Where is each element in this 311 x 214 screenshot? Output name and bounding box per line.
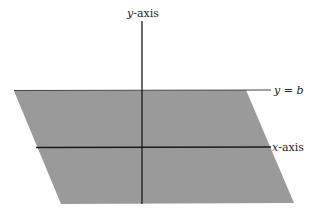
y-axis-label: y-axis <box>126 7 159 20</box>
half-plane-diagram: y-axis y = b x-axis <box>0 0 311 214</box>
x-axis-label: x-axis <box>272 141 304 154</box>
line-label-y-equals-b: y = b <box>273 84 303 97</box>
x-axis-line <box>36 147 271 148</box>
